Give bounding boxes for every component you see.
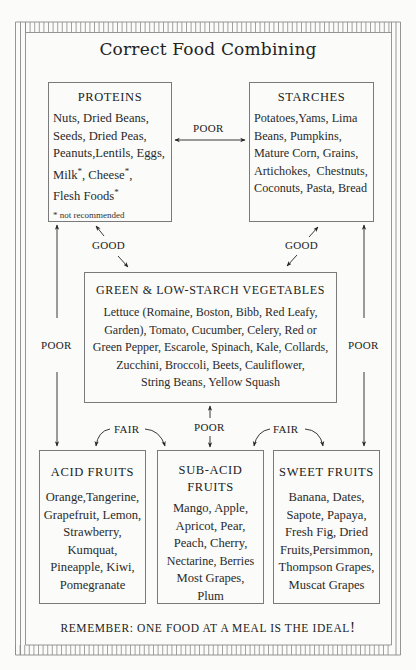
arrow-good-to-starches (309, 227, 318, 237)
acid-fruits-line: Kumquat, (40, 542, 145, 560)
flesh-foods-item: Flesh Foods (53, 189, 114, 203)
acid-fruits-line: Strawberry, (40, 524, 145, 542)
starches-list: Potatoes,Yams, Lima Beans, Pumpkins, Mat… (254, 110, 373, 198)
sweet-fruits-line: Sapote, Papaya, (274, 507, 379, 525)
sweet-fruits-line: Thompson Grapes, (274, 559, 379, 577)
starches-line: Beans, Pumpkins, (254, 128, 373, 146)
sweet-fruits-list: Banana, Dates, Sapote, Papaya, Fresh Fig… (274, 489, 379, 594)
not-recommended-note: * not recommended (53, 210, 171, 220)
sub-acid-fruits-list: Mango, Apple, Apricot, Pear, Peach, Cher… (158, 500, 263, 605)
proteins-line: Nuts, Dried Beans, (53, 110, 171, 128)
footer-text: REMEMBER: ONE FOOD AT A MEAL IS THE IDEA… (60, 622, 350, 634)
sub-acid-fruits-line: Plum (158, 588, 263, 606)
proteins-heading: PROTEINS (53, 90, 171, 105)
vegetables-box: GREEN & LOW-STARCH VEGETABLES Lettuce (R… (84, 272, 337, 403)
starches-line: Artichokes, Chestnuts, (254, 163, 373, 181)
proteins-list: Nuts, Dried Beans, Seeds, Dried Peas, Pe… (53, 110, 171, 206)
vegetables-line: String Beans, Yellow Squash (87, 374, 334, 392)
milk-item: Milk (53, 168, 78, 182)
arrow-fair-to-subacid-left (145, 429, 165, 446)
acid-fruits-line: Pomegranate (40, 577, 145, 595)
asterisk: * (114, 187, 119, 197)
proteins-line: Seeds, Dried Peas, (53, 128, 171, 146)
comma: , (129, 168, 132, 182)
label-proteins-acid: POOR (41, 339, 72, 351)
sweet-fruits-line: Fruits,Persimmon, (274, 542, 379, 560)
sweet-fruits-line: Banana, Dates, (274, 489, 379, 507)
sweet-fruits-line: Muscat Grapes (274, 577, 379, 595)
sweet-fruits-heading: SWEET FRUITS (274, 465, 379, 480)
proteins-line: Flesh Foods* (53, 184, 171, 206)
acid-fruits-line: Pineapple, Kiwi, (40, 559, 145, 577)
arrow-good-to-proteins (96, 226, 104, 236)
footer-exclamation: ! (350, 619, 356, 635)
arrow-fair-to-subacid-right (254, 429, 270, 446)
sub-acid-fruits-box: SUB-ACID FRUITS Mango, Apple, Apricot, P… (157, 450, 264, 604)
sweet-fruits-line: Fresh Fig, Dried (274, 524, 379, 542)
label-proteins-starches: POOR (193, 122, 224, 134)
sub-acid-fruits-line: Peach, Cherry, (158, 535, 263, 553)
vegetables-line: Garden), Tomato, Cucumber, Celery, Red o… (87, 322, 334, 340)
acid-fruits-list: Orange,Tangerine, Grapefruit, Lemon, Str… (40, 489, 145, 594)
acid-fruits-line: Grapefruit, Lemon, (40, 507, 145, 525)
footer-reminder: REMEMBER: ONE FOOD AT A MEAL IS THE IDEA… (0, 619, 416, 636)
proteins-line: Milk*, Cheese*, (53, 163, 171, 185)
cheese-item: , Cheese (82, 168, 125, 182)
acid-fruits-line: Orange,Tangerine, (40, 489, 145, 507)
sub-acid-fruits-line: Apricot, Pear, (158, 518, 263, 536)
label-subacid-sweet: FAIR (273, 423, 298, 435)
acid-fruits-box: ACID FRUITS Orange,Tangerine, Grapefruit… (39, 450, 146, 604)
starches-line: Mature Corn, Grains, (254, 145, 373, 163)
proteins-box: PROTEINS Nuts, Dried Beans, Seeds, Dried… (48, 82, 172, 222)
vegetables-list: Lettuce (Romaine, Boston, Bibb, Red Leaf… (87, 304, 334, 392)
starches-line: Coconuts, Pasta, Bread (254, 180, 373, 198)
arrow-fair-to-sweet (305, 429, 323, 446)
proteins-line: Peanuts,Lentils, Eggs, (53, 145, 171, 163)
vegetables-line: Zucchini, Broccoli, Beets, Cauliflower, (87, 357, 334, 375)
sub-acid-fruits-heading: SUB-ACID FRUITS (158, 462, 263, 496)
diagram-title: Correct Food Combining (0, 39, 416, 59)
sub-acid-fruits-line: Mango, Apple, (158, 500, 263, 518)
starches-line: Potatoes,Yams, Lima (254, 110, 373, 128)
label-starches-sweet: POOR (348, 339, 379, 351)
top-hatch-band (26, 22, 389, 33)
sweet-fruits-box: SWEET FRUITS Banana, Dates, Sapote, Papa… (273, 450, 380, 604)
vegetables-line: Green Pepper, Escarole, Spinach, Kale, C… (87, 339, 334, 357)
starches-heading: STARCHES (254, 90, 373, 105)
vegetables-line: Lettuce (Romaine, Boston, Bibb, Red Leaf… (87, 304, 334, 322)
arrow-good-to-vegetables-right (287, 255, 297, 266)
sub-acid-fruits-line: Nectarine, Berries (158, 553, 263, 571)
sub-acid-heading-line: SUB-ACID (158, 462, 263, 479)
vegetables-heading: GREEN & LOW-STARCH VEGETABLES (87, 283, 334, 298)
sub-acid-heading-line: FRUITS (158, 479, 263, 496)
label-vegetables-subacid: POOR (194, 421, 225, 433)
arrow-good-to-vegetables-left (118, 256, 128, 267)
sub-acid-fruits-line: Most Grapes, (158, 570, 263, 588)
arrow-fair-to-acid (96, 429, 110, 446)
bottom-hatch-band (16, 645, 389, 655)
acid-fruits-heading: ACID FRUITS (40, 465, 145, 480)
starches-box: STARCHES Potatoes,Yams, Lima Beans, Pump… (249, 82, 374, 222)
label-acid-subacid: FAIR (114, 423, 139, 435)
label-starches-vegetables: GOOD (285, 239, 318, 251)
label-proteins-vegetables: GOOD (92, 239, 125, 251)
